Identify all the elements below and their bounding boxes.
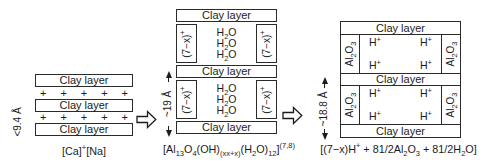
alumina-pillar-box: Al2O3 [441, 86, 460, 124]
proton-cell: H+ H+ H+ H+ [360, 35, 441, 73]
keggin-pillar-label: (7−x)+ [182, 86, 192, 113]
arrow-down-icon [166, 130, 172, 137]
interlayer-region: (7−x)+ H2O H2O H2O (7−x)+ [176, 22, 277, 65]
right-spacing-text: ~18.8 Å [320, 91, 330, 126]
clay-layer-label: Clay layer [60, 75, 109, 86]
proton-label: H+ [369, 111, 381, 122]
right-caption-formula: [(7−x)H+ + 81/2Al2O3 + 81/2H2O] [313, 144, 484, 156]
left-caption-formula: [Ca]+[Na] [34, 146, 134, 158]
clay-layer-label: Clay layer [60, 100, 109, 111]
clay-layer-label: Clay layer [376, 126, 425, 137]
cation-row: + + + + + [35, 87, 133, 99]
clay-layer-box: Clay layer [176, 65, 277, 78]
cation-row: + + + + + [35, 112, 133, 123]
keggin-pillar-box: (7−x)+ [256, 24, 277, 63]
right-block-arrow-icon [282, 106, 303, 125]
clay-layer-box: Clay layer [341, 73, 460, 86]
clay-layer-box: Clay layer [341, 124, 460, 137]
plus-symbol: + [81, 88, 87, 99]
clay-layer-label: Clay layer [202, 122, 251, 133]
keggin-pillar-box: (7−x)+ [176, 24, 197, 63]
alumina-pillar-box: Al2O3 [341, 86, 360, 124]
plus-symbol: + [101, 112, 107, 123]
left-basal-spacing-text: <9.4 Å [13, 107, 23, 136]
middle-clay-stack: Clay layer (7−x)+ H2O H2O H2O (7−x)+ Cla… [176, 9, 277, 134]
clay-layer-box: Clay layer [35, 74, 133, 87]
arrow-up-icon [322, 77, 328, 84]
clay-layer-box: Clay layer [176, 9, 277, 22]
clay-layer-label: Clay layer [202, 10, 251, 21]
keggin-pillar-label: (7−x)+ [262, 30, 272, 57]
water-label: H2O [217, 49, 237, 60]
middle-spacing-arrow: ~19 Å [161, 71, 176, 137]
clay-layer-box: Clay layer [35, 123, 133, 136]
plus-symbol: + [122, 88, 128, 99]
clay-layer-label: Clay layer [376, 23, 425, 34]
plus-symbol: + [101, 88, 107, 99]
arrow-down-icon [322, 133, 328, 140]
right-block-arrow-icon [136, 110, 157, 129]
keggin-pillar-box: (7−x)+ [256, 80, 277, 119]
right-spacing-arrow: ~18.8 Å [317, 77, 332, 140]
proton-label: H+ [369, 88, 381, 99]
middle-spacing-text: ~19 Å [164, 91, 174, 117]
pillared-clay-diagram: <9.4 Å Clay layer + + + + + Clay layer +… [0, 0, 484, 166]
plus-symbol: + [40, 112, 46, 123]
alumina-pillar-label: Al2O3 [446, 92, 456, 117]
alumina-pillar-label: Al2O3 [345, 41, 355, 66]
clay-layer-box: Clay layer [341, 22, 460, 35]
proton-label: H+ [369, 37, 381, 48]
clay-layer-label: Clay layer [376, 74, 425, 85]
middle-caption-formula: [Al13O4(OH)(xx+x)(H2O)12](7,8) [143, 144, 315, 156]
water-column: H2O H2O H2O [197, 22, 256, 65]
plus-symbol: + [122, 112, 128, 123]
proton-label: H+ [369, 60, 381, 71]
water-column: H2O H2O H2O [197, 78, 256, 121]
plus-symbol: + [60, 88, 66, 99]
clay-layer-label: Clay layer [202, 66, 251, 77]
proton-cell: H+ H+ H+ H+ [360, 86, 441, 124]
interlayer-region: (7−x)+ H2O H2O H2O (7−x)+ [176, 78, 277, 121]
right-clay-stack: Clay layer Al2O3 H+ H+ H+ H+ Al2O3 Clay … [340, 21, 461, 138]
plus-symbol: + [40, 88, 46, 99]
left-clay-stack: Clay layer + + + + + Clay layer + + + + … [35, 74, 133, 136]
water-label: H2O [217, 105, 237, 116]
interlayer-region: Al2O3 H+ H+ H+ H+ Al2O3 [341, 86, 460, 124]
interlayer-region: Al2O3 H+ H+ H+ H+ Al2O3 [341, 35, 460, 73]
proton-label: H+ [420, 60, 432, 71]
alumina-pillar-label: Al2O3 [446, 41, 456, 66]
alumina-pillar-label: Al2O3 [345, 92, 355, 117]
clay-layer-label: Clay layer [60, 124, 109, 135]
proton-label: H+ [420, 37, 432, 48]
proton-label: H+ [420, 88, 432, 99]
keggin-pillar-label: (7−x)+ [182, 30, 192, 57]
keggin-pillar-label: (7−x)+ [262, 86, 272, 113]
alumina-pillar-box: Al2O3 [341, 35, 360, 73]
plus-symbol: + [60, 112, 66, 123]
clay-layer-box: Clay layer [176, 121, 277, 134]
proton-label: H+ [420, 111, 432, 122]
keggin-pillar-box: (7−x)+ [176, 80, 197, 119]
alumina-pillar-box: Al2O3 [441, 35, 460, 73]
arrow-up-icon [166, 71, 172, 78]
left-basal-spacing-label: <9.4 Å [10, 101, 26, 143]
plus-symbol: + [81, 112, 87, 123]
